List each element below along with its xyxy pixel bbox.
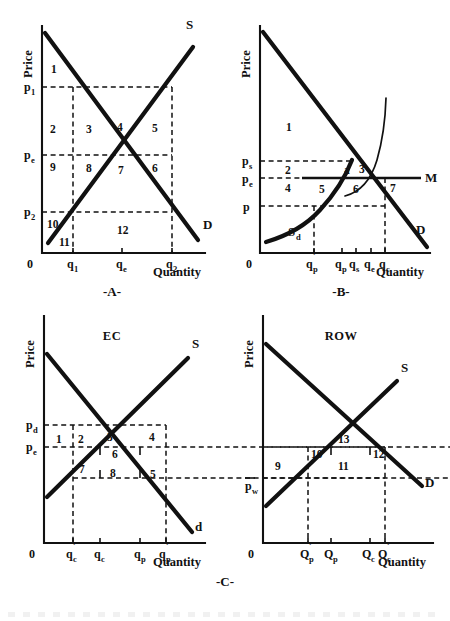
panel-c-right-region-11: 11 — [338, 460, 349, 472]
panel-c-right-Qpp-base: Q — [300, 547, 309, 561]
panel-c-left-qpp-sub: p — [166, 554, 171, 564]
panel-a-demand-label: D — [203, 217, 212, 232]
panel-b-qe-base: q — [364, 257, 371, 271]
panel-b-y-axis-label: Price — [239, 50, 253, 78]
panel-c-right-Qc-base: Q — [362, 547, 371, 561]
panel-c-left-qcp-prime: ´ — [73, 542, 76, 552]
panel-b: Price Quantity 0 p s p e p q p ´ q p q s… — [239, 26, 437, 299]
panel-c-left-region-1: 1 — [56, 433, 62, 445]
panel-c-left-pd-sub: d — [33, 425, 38, 435]
panel-c-left-region-4: 4 — [149, 431, 155, 443]
panel-c-right-qty-tick-qc-prime: Q c ´ — [378, 542, 391, 564]
panel-b-demand-label: D — [416, 222, 425, 237]
panel-a-qe-sub: e — [123, 264, 127, 274]
panel-b-qty-tick-qe: q e — [364, 257, 375, 274]
panel-b-qty-tick-qp: q p — [335, 257, 347, 274]
panel-a-q2-sub: 2 — [173, 264, 177, 274]
panel-c-left-region-2: 2 — [78, 433, 84, 445]
figure-svg: Price Quantity 0 p 1 p e p 2 q 1 q e q 2 — [0, 0, 450, 621]
panel-b-pe-base: p — [242, 172, 249, 186]
panel-a-region-8: 8 — [86, 162, 92, 174]
panel-a-supply-curve — [48, 47, 193, 243]
panel-c-left-axes — [44, 316, 205, 543]
panel-b-qc-base: q — [379, 257, 386, 271]
panel-a-region-7: 7 — [118, 164, 124, 176]
panel-c-left-qp-base: q — [134, 547, 141, 561]
panel-c-left-region-5: 5 — [150, 468, 156, 480]
panel-a-supply-label: S — [186, 17, 193, 32]
panel-b-qty-tick-qp-prime: q p ´ — [306, 252, 318, 274]
bottom-text-artifact — [8, 612, 442, 617]
panel-c-right-pw-base: p — [245, 479, 252, 493]
panel-a-region-12: 12 — [117, 224, 129, 236]
panel-c-left-demand-label: d — [195, 519, 203, 534]
panel-c-left-pd-base: p — [26, 418, 33, 432]
panel-b-region-7: 7 — [390, 182, 396, 194]
panel-c-right-price-tick-pw: p w — [245, 478, 259, 496]
panel-c-left-pe-sub: e — [33, 447, 37, 457]
panel-b-region-4: 4 — [285, 182, 291, 194]
panel-c-right-row: Price Quantity 0 ROW p w Q p ´ Q p Q c Q… — [216, 316, 434, 589]
panel-a-caption: -A- — [103, 284, 121, 299]
panel-c-caption: -C- — [216, 574, 234, 589]
panel-a-p1-base: p — [24, 80, 31, 94]
panel-a-p2-base: p — [24, 205, 31, 219]
panel-a-q2-base: q — [166, 257, 173, 271]
panel-a-x-axis-label: Quantity — [153, 265, 202, 279]
panel-c-left-region-6: 6 — [112, 448, 118, 460]
panel-b-qp-sub: p — [342, 264, 347, 274]
panel-b-qty-tick-qs: q s — [349, 257, 360, 274]
panel-a-region-11: 11 — [59, 236, 70, 248]
panel-c-right-region-12: 12 — [373, 448, 385, 460]
panel-c-right-supply-label: S — [401, 360, 408, 375]
panel-b-price-tick-pe: p e — [242, 172, 253, 189]
panel-c-left-origin-label: 0 — [29, 547, 35, 561]
panel-c-right-Qp-sub: p — [333, 554, 338, 564]
panel-a-region-6: 6 — [152, 162, 158, 174]
panel-a-q1-sub: 1 — [74, 264, 78, 274]
panel-b-pe-sub: e — [249, 179, 253, 189]
panel-b-price-tick-ps: p s — [242, 154, 253, 171]
panel-c-right-origin-label: 0 — [248, 547, 254, 561]
panel-a-qty-tick-q1: q 1 — [67, 257, 78, 274]
panel-a-qe-base: q — [116, 257, 123, 271]
panel-c-right-Qpp-prime: ´ — [309, 542, 312, 552]
panel-b-caption: -B- — [332, 284, 349, 299]
panel-b-region-3: 3 — [359, 163, 365, 175]
panel-b-region-2: 2 — [285, 164, 291, 176]
economics-figure: Price Quantity 0 p 1 p e p 2 q 1 q e q 2 — [0, 0, 450, 621]
panel-a-pe-sub: e — [31, 155, 35, 165]
panel-a-region-2: 2 — [50, 123, 56, 135]
panel-c-right-demand-label: D — [425, 475, 434, 490]
panel-b-sd-base: S — [288, 224, 295, 239]
panel-c-left-ec: Price Quantity 0 EC p d p e q c ´ q c q … — [23, 316, 450, 569]
panel-c-left-price-tick-pe: p e — [26, 440, 37, 457]
panel-c-right-Qp-base: Q — [324, 547, 333, 561]
panel-b-qp-base: q — [335, 257, 342, 271]
panel-c-left-qty-tick-qc: q c — [94, 547, 105, 564]
panel-b-region-6: 6 — [353, 183, 359, 195]
panel-c-left-region-3: 3 — [107, 431, 113, 443]
panel-c-left-qcp-base: q — [66, 547, 73, 561]
panel-a-price-tick-p2: p 2 — [24, 205, 35, 222]
panel-c-left-demand-curve — [47, 354, 192, 532]
panel-a-p2-sub: 2 — [31, 212, 35, 222]
panel-c-left-qpp-base: q — [159, 547, 166, 561]
panel-b-ps-base: p — [242, 154, 249, 168]
panel-c-left-region-8: 8 — [110, 467, 116, 479]
panel-a-region-4: 4 — [117, 121, 123, 133]
panel-a-qty-tick-qe: q e — [116, 257, 127, 274]
panel-a-pe-base: p — [24, 148, 31, 162]
panel-c-right-pw-sub: w — [252, 486, 259, 496]
panel-c-right-Qcp-prime: ´ — [387, 542, 390, 552]
panel-c-right-qty-tick-qp-prime: Q p ´ — [300, 542, 314, 564]
panel-b-point-a: a — [344, 164, 350, 176]
panel-b-qe-sub: e — [371, 264, 375, 274]
panel-a-q1-base: q — [67, 257, 74, 271]
panel-b-region-1: 1 — [286, 121, 292, 133]
panel-b-price-tick-p: p — [243, 200, 250, 214]
panel-c-right-y-axis-label: Price — [242, 340, 256, 368]
panel-a: Price Quantity 0 p 1 p e p 2 q 1 q e q 2 — [21, 17, 212, 299]
panel-a-region-1: 1 — [51, 63, 57, 75]
panel-b-qs-sub: s — [356, 264, 360, 274]
